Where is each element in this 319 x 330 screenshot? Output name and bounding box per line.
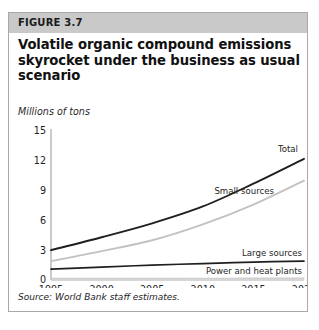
x-tick-label: 1995: [39, 284, 63, 288]
x-tick-label: 2020: [292, 284, 307, 288]
y-tick-label: 6: [40, 215, 46, 226]
series-label-total: Total: [277, 144, 298, 154]
x-tick-label: 2010: [191, 284, 215, 288]
figure-number-label: FIGURE 3.7: [18, 17, 83, 28]
series-label-large-sources: Large sources: [242, 248, 302, 258]
chart-series-labels: TotalSmall sourcesLarge sourcesPower and…: [206, 144, 303, 276]
y-tick-label: 9: [40, 185, 46, 196]
chart-series-group: [51, 159, 304, 279]
x-tick-label: 2015: [241, 284, 265, 288]
page-title: Volatile organic compound emissions skyr…: [18, 37, 301, 84]
x-axis-tick-labels: 199520002005201020152020: [39, 284, 307, 288]
x-tick-label: 2000: [89, 284, 113, 288]
y-tick-label: 3: [40, 245, 46, 256]
y-axis-tick-labels: 03691215: [34, 125, 46, 285]
chart-plot-area: 03691215 199520002005201020152020 TotalS…: [9, 113, 307, 288]
line-chart-svg: 03691215 199520002005201020152020 TotalS…: [9, 113, 307, 288]
series-line-total: [51, 159, 304, 250]
y-tick-label: 15: [34, 125, 46, 136]
series-label-small-sources: Small sources: [214, 186, 274, 196]
y-tick-label: 12: [34, 155, 46, 166]
figure-card: FIGURE 3.7 Volatile organic compound emi…: [8, 12, 308, 312]
figure-header-band: FIGURE 3.7: [9, 13, 307, 33]
series-label-power-and-heat-plants: Power and heat plants: [206, 266, 303, 276]
x-tick-label: 2005: [140, 284, 164, 288]
chart-source-note: Source: World Bank staff estimates.: [18, 292, 180, 302]
